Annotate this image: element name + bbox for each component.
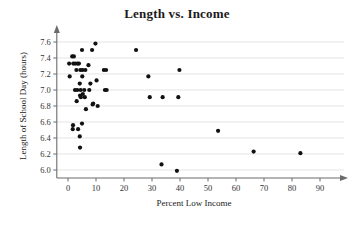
data-point <box>176 95 180 99</box>
data-point <box>72 54 76 58</box>
data-point <box>177 68 181 72</box>
data-point <box>96 104 100 108</box>
data-point <box>76 127 80 131</box>
x-tick-label-6: 60 <box>232 183 241 193</box>
data-point <box>146 74 150 78</box>
data-point <box>216 129 220 133</box>
data-point <box>252 150 256 154</box>
data-point-group <box>67 42 302 173</box>
data-point <box>105 88 109 92</box>
data-point <box>68 74 72 78</box>
scatter-plot-figure: Length vs. Income 6.06.26.46.66.87.07.27… <box>0 0 354 238</box>
y-tick-label-4: 6.8 <box>40 101 51 111</box>
data-point <box>298 151 302 155</box>
data-point <box>104 68 108 72</box>
data-point <box>88 82 92 86</box>
x-tick-label-5: 50 <box>204 183 213 193</box>
y-tick-label-2: 6.4 <box>40 133 51 143</box>
data-point <box>87 88 91 92</box>
data-point <box>67 62 71 66</box>
data-point <box>82 88 86 92</box>
x-tick-label-9: 90 <box>316 183 325 193</box>
data-point <box>134 48 138 52</box>
data-point <box>74 68 78 72</box>
data-point <box>80 74 84 78</box>
data-point <box>78 134 82 138</box>
data-point <box>175 169 179 173</box>
data-point <box>80 48 84 52</box>
x-tick-label-7: 70 <box>260 183 269 193</box>
y-axis-arrow-icon <box>54 25 60 33</box>
data-point <box>91 102 95 106</box>
data-point <box>93 42 97 46</box>
y-tick-label-5: 7.0 <box>40 85 51 95</box>
data-point <box>84 107 88 111</box>
data-point <box>71 127 75 131</box>
data-point <box>83 68 87 72</box>
x-tick-label-0: 0 <box>66 183 70 193</box>
data-point <box>71 123 75 127</box>
y-tick-label-0: 6.0 <box>40 165 51 175</box>
data-point <box>148 95 152 99</box>
x-tick-label-3: 30 <box>148 183 157 193</box>
y-tick-label-6: 7.2 <box>40 69 51 79</box>
x-axis-title: Percent Low Income <box>157 198 232 208</box>
x-axis-arrow-icon <box>340 175 348 181</box>
plot-canvas: 6.06.26.46.66.87.07.27.47.60102030405060… <box>0 0 354 238</box>
data-point <box>77 62 81 66</box>
x-tick-label-8: 80 <box>288 183 297 193</box>
data-point <box>159 162 163 166</box>
y-tick-label-8: 7.6 <box>40 37 51 47</box>
data-point <box>80 122 84 126</box>
y-tick-label-7: 7.4 <box>40 53 51 63</box>
y-tick-label-1: 6.2 <box>40 149 51 159</box>
x-tick-label-4: 40 <box>176 183 185 193</box>
data-point <box>90 48 94 52</box>
data-point <box>94 78 98 82</box>
data-point <box>79 88 83 92</box>
data-point <box>75 99 79 103</box>
data-point <box>86 63 90 67</box>
y-tick-label-3: 6.6 <box>40 117 51 127</box>
y-axis-title: Length of School Day (hours) <box>18 52 28 160</box>
data-point <box>161 95 165 99</box>
data-point <box>83 95 87 99</box>
x-tick-label-2: 20 <box>120 183 129 193</box>
data-point <box>78 82 82 86</box>
data-point <box>78 146 82 150</box>
x-tick-label-1: 10 <box>92 183 101 193</box>
